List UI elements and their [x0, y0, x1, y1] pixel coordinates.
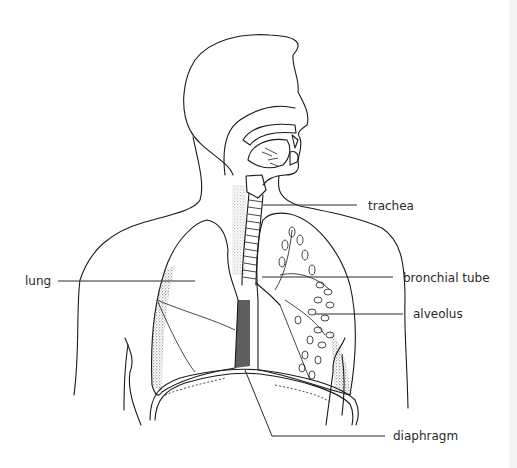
- leader-lines: [58, 205, 403, 436]
- label-bronchial-tube: bronchial tube: [403, 271, 490, 285]
- label-diaphragm: diaphragm: [393, 429, 458, 443]
- label-alveolus: alveolus: [413, 307, 463, 321]
- diaphragm-leader: [245, 370, 385, 436]
- nasal-oral-cavity: [224, 106, 298, 175]
- label-trachea: trachea: [368, 199, 414, 213]
- trachea-structure: [232, 175, 266, 285]
- label-lung: lung: [25, 274, 51, 288]
- left-lung: [152, 220, 238, 395]
- anatomy-illustration: [0, 0, 517, 468]
- respiratory-system-diagram: trachea lung bronchial tube alveolus dia…: [0, 0, 517, 468]
- right-lung: [256, 213, 355, 395]
